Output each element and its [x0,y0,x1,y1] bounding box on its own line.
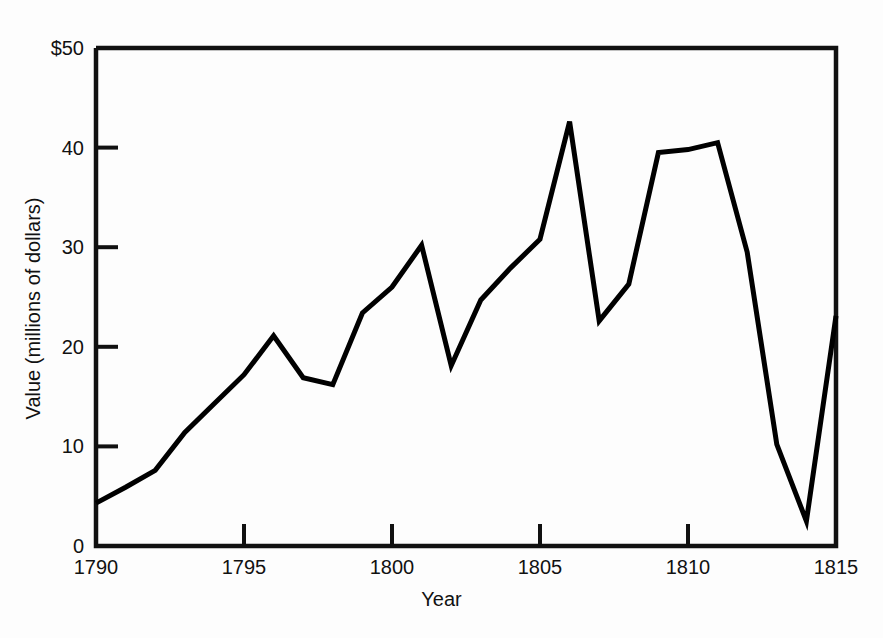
y-tick-label: 40 [0,136,84,159]
x-axis-title: Year [0,588,883,611]
x-axis-ticks [244,524,688,546]
x-tick-label: 1795 [222,556,267,579]
y-axis-title: Value (millions of dollars) [22,159,45,459]
line-chart: 010203040$50 179017951800180518101815 Va… [0,0,883,638]
x-tick-label: 1810 [666,556,711,579]
x-tick-label: 1790 [74,556,119,579]
data-series-line [96,122,836,521]
y-tick-label: $50 [0,37,84,60]
x-tick-label: 1805 [518,556,563,579]
plot-border [96,48,836,546]
x-tick-label: 1815 [814,556,859,579]
chart-canvas [0,0,883,638]
x-tick-label: 1800 [370,556,415,579]
y-tick-label: 0 [0,535,84,558]
y-axis-ticks [96,148,118,447]
axis-frame [96,48,836,546]
